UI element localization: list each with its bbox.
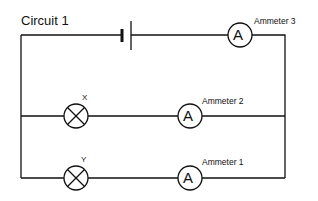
ammeter-3-label: Ammeter 3 — [254, 16, 296, 26]
circuit-diagram — [0, 0, 318, 201]
ammeter-2-symbol: A — [183, 107, 193, 124]
lamp-x-label: X — [82, 93, 87, 102]
diagram-title: Circuit 1 — [21, 13, 69, 28]
ammeter-1-label: Ammeter 1 — [202, 157, 244, 167]
wire-top-right-2 — [252, 35, 285, 178]
lamp-x-icon — [64, 104, 88, 128]
ammeter-3-symbol: A — [233, 26, 243, 43]
battery-icon — [122, 21, 131, 50]
ammeter-1-symbol: A — [183, 169, 193, 186]
lamp-y-label: Y — [81, 155, 86, 164]
ammeter-2-label: Ammeter 2 — [202, 96, 244, 106]
lamp-y-icon — [64, 166, 88, 190]
